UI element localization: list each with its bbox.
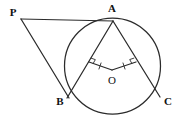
segment-pb	[21, 19, 69, 98]
point-label-o: O	[108, 75, 116, 86]
point-label-b: B	[56, 96, 63, 107]
point-label-p: P	[10, 7, 17, 18]
circumcircle	[65, 18, 161, 114]
point-label-a: A	[108, 3, 116, 14]
segment-ac	[113, 21, 160, 97]
segment-ab	[67, 21, 113, 98]
geometry-figure: P A B C O	[0, 0, 178, 123]
point-label-c: C	[164, 96, 172, 107]
geometry-canvas	[0, 0, 178, 123]
